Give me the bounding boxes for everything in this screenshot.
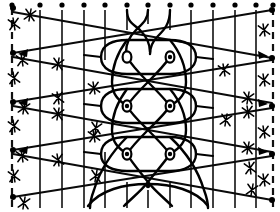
right-node	[269, 197, 275, 203]
left-node	[10, 50, 16, 56]
right-node	[269, 151, 275, 157]
braid-node-center-row1	[168, 55, 172, 59]
top-dot	[59, 2, 64, 7]
top-dot	[167, 2, 172, 7]
left-node	[10, 99, 16, 105]
braid-node-center-row3a	[125, 152, 129, 156]
left-node	[10, 194, 16, 200]
braid-diagram-canvas	[0, 0, 280, 212]
right-node	[269, 7, 275, 13]
top-dot	[232, 2, 237, 7]
right-node	[269, 55, 275, 61]
top-dot	[188, 2, 193, 7]
braid-node-row1-left	[123, 51, 132, 62]
right-node	[269, 103, 275, 109]
top-dot	[253, 2, 258, 7]
top-dot	[81, 2, 86, 7]
top-dot	[270, 2, 275, 7]
top-dot	[37, 2, 42, 7]
braid-node-center-bottom	[146, 184, 150, 188]
top-dot	[145, 2, 150, 7]
braid-node-center-row2b	[168, 104, 172, 108]
left-node	[10, 5, 16, 11]
left-node	[10, 147, 16, 153]
top-dot	[210, 2, 215, 7]
braid-node-center-row2a	[125, 104, 129, 108]
top-dot	[124, 2, 129, 7]
braid-diagram-figure	[0, 0, 280, 212]
braid-node-center-row3b	[168, 152, 172, 156]
top-dot	[102, 2, 107, 7]
